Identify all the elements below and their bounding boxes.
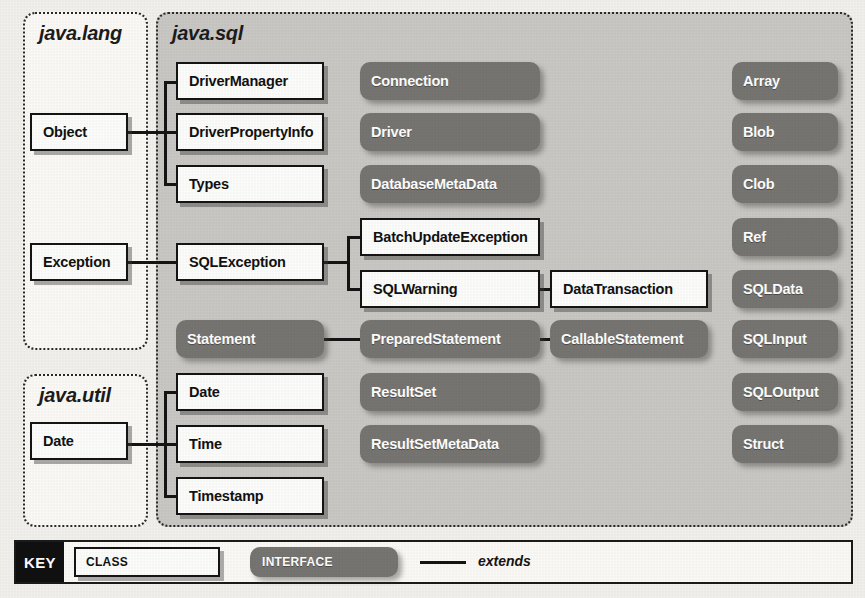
node-label: BatchUpdateException	[362, 229, 528, 245]
node-drivermanager[interactable]: DriverManager	[176, 62, 324, 100]
legend-extends-label: extends	[478, 553, 531, 569]
node-label: DriverManager	[178, 73, 288, 89]
edge-object-trunk	[128, 131, 166, 134]
node-label: DataTransaction	[552, 281, 673, 297]
legend-key-tag: KEY	[16, 542, 64, 582]
edge-exception-sqlexception	[128, 261, 178, 264]
node-label: Date	[32, 433, 74, 449]
node-label: SQLData	[732, 281, 803, 297]
node-label: Timestamp	[178, 488, 264, 504]
legend-class-label: CLASS	[76, 555, 128, 569]
node-sqlwarning[interactable]: SQLWarning	[360, 270, 540, 308]
node-label: Exception	[32, 254, 111, 270]
node-label: ResultSetMetaData	[360, 436, 499, 452]
edge-sqlexception-bus	[347, 236, 350, 289]
node-databasemetadata[interactable]: DatabaseMetaData	[360, 165, 540, 203]
package-title-java-util: java.util	[39, 384, 111, 407]
node-sqlexception[interactable]: SQLException	[176, 243, 324, 281]
node-label: SQLInput	[732, 331, 807, 347]
node-sql-time[interactable]: Time	[176, 425, 324, 463]
node-types[interactable]: Types	[176, 165, 324, 203]
node-sqloutput[interactable]: SQLOutput	[732, 373, 838, 411]
node-label: Time	[178, 436, 222, 452]
node-batchupdateexception[interactable]: BatchUpdateException	[360, 218, 540, 256]
node-callablestatement[interactable]: CallableStatement	[550, 320, 708, 358]
node-label: Array	[732, 73, 780, 89]
legend-extends-line	[420, 561, 466, 564]
node-label: Driver	[360, 124, 412, 140]
package-title-java-sql: java.sql	[172, 22, 243, 45]
node-label: Clob	[732, 176, 774, 192]
node-sqldata[interactable]: SQLData	[732, 270, 838, 308]
node-label: Types	[178, 176, 229, 192]
node-connection[interactable]: Connection	[360, 62, 540, 100]
node-clob[interactable]: Clob	[732, 165, 838, 203]
node-statement[interactable]: Statement	[176, 320, 324, 358]
class-diagram-canvas: java.lang java.util java.sql Object Exce…	[0, 0, 865, 598]
node-blob[interactable]: Blob	[732, 113, 838, 151]
edge-sqlexception-trunk	[324, 261, 349, 264]
package-title-java-lang: java.lang	[39, 22, 122, 45]
node-object[interactable]: Object	[30, 113, 128, 151]
node-preparedstatement[interactable]: PreparedStatement	[360, 320, 540, 358]
node-label: PreparedStatement	[360, 331, 501, 347]
package-java-lang	[23, 12, 148, 350]
node-resultset[interactable]: ResultSet	[360, 373, 540, 411]
node-sql-timestamp[interactable]: Timestamp	[176, 477, 324, 515]
node-driver[interactable]: Driver	[360, 113, 540, 151]
node-resultsetmetadata[interactable]: ResultSetMetaData	[360, 425, 540, 463]
node-label: DatabaseMetaData	[360, 176, 497, 192]
edge-statement-preparedstatement	[324, 338, 362, 341]
node-label: SQLException	[178, 254, 286, 270]
node-label: ResultSet	[360, 384, 436, 400]
legend-interface-label: INTERFACE	[250, 555, 333, 569]
node-driverpropertyinfo[interactable]: DriverPropertyInfo	[176, 113, 324, 151]
node-label: Ref	[732, 229, 766, 245]
node-label: Date	[178, 384, 220, 400]
node-sqlinput[interactable]: SQLInput	[732, 320, 838, 358]
node-exception[interactable]: Exception	[30, 243, 128, 281]
node-ref[interactable]: Ref	[732, 218, 838, 256]
node-datatransaction[interactable]: DataTransaction	[550, 270, 708, 308]
legend-class-sample: CLASS	[74, 547, 220, 577]
node-array[interactable]: Array	[732, 62, 838, 100]
node-util-date[interactable]: Date	[30, 422, 128, 460]
edge-utildate-trunk	[128, 443, 166, 446]
legend-interface-sample: INTERFACE	[250, 547, 398, 577]
legend-key-label: KEY	[24, 554, 56, 571]
node-label: Struct	[732, 436, 784, 452]
node-label: Object	[32, 124, 87, 140]
node-label: SQLOutput	[732, 384, 819, 400]
node-label: Connection	[360, 73, 449, 89]
node-sql-date[interactable]: Date	[176, 373, 324, 411]
node-struct[interactable]: Struct	[732, 425, 838, 463]
node-label: DriverPropertyInfo	[178, 124, 314, 140]
node-label: CallableStatement	[550, 331, 683, 347]
node-label: SQLWarning	[362, 281, 457, 297]
node-label: Statement	[176, 331, 255, 347]
node-label: Blob	[732, 124, 774, 140]
